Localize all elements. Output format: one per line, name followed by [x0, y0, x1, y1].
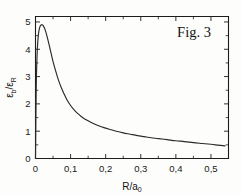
y-tick-label: 3 [25, 71, 30, 82]
x-axis-tick-labels: 00,10,20,30,40,5 [33, 163, 218, 174]
x-axis-title: R/a0 [122, 181, 142, 194]
y-tick-label: 1 [25, 126, 30, 137]
y-tick-label: 0 [25, 153, 30, 164]
x-tick-label: 0,4 [169, 163, 182, 174]
x-tick-label: 0 [33, 163, 38, 174]
chart-canvas: 00,10,20,30,40,5 012345 R/a0 εb/εR Fig. … [0, 0, 241, 195]
x-tick-label: 0,5 [204, 163, 217, 174]
y-axis-ticks [36, 22, 229, 159]
y-tick-label: 4 [25, 44, 30, 55]
x-tick-label: 0,3 [134, 163, 147, 174]
x-tick-label: 0,1 [64, 163, 77, 174]
figure-number-annotation: Fig. 3 [177, 24, 211, 40]
y-tick-label: 5 [25, 16, 30, 27]
y-tick-label: 2 [25, 98, 30, 109]
x-tick-label: 0,2 [99, 163, 112, 174]
y-axis-title-text: εb/εR [4, 77, 17, 98]
data-series-line [36, 25, 225, 159]
figure-panel: 00,10,20,30,40,5 012345 R/a0 εb/εR Fig. … [0, 0, 241, 195]
y-axis-tick-labels: 012345 [25, 16, 30, 164]
y-axis-title: εb/εR [4, 77, 17, 98]
